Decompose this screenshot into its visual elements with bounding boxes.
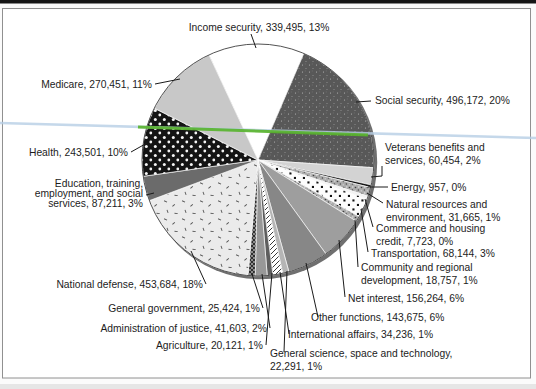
slice-label-social-security: Social security, 496,172, 20%: [375, 95, 510, 106]
scan-edge-top-bar: [0, 0, 536, 4]
slice-label-net-interest: Net interest, 156,264, 6%: [348, 293, 464, 304]
slice-label-other-functions: Other functions, 143,675, 6%: [311, 312, 444, 323]
scanned-pie-chart-figure: Income security, 339,495, 13%Social secu…: [0, 0, 536, 389]
slice-label-national-defense: National defense, 453,684, 18%: [56, 279, 203, 290]
slice-label-international-affairs: International affairs, 34,236, 1%: [288, 329, 433, 340]
pie-chart: Income security, 339,495, 13%Social secu…: [0, 0, 536, 389]
slice-label-income-security: Income security, 339,495, 13%: [189, 22, 330, 33]
slice-label-agriculture: Agriculture, 20,121, 1%: [156, 340, 263, 351]
slice-label-transportation: Transportation, 68,144, 3%: [371, 248, 495, 259]
slice-label-general-government: General government, 25,424, 1%: [108, 303, 260, 314]
scan-edge-bottom-strip: [0, 384, 536, 389]
slice-label-administration-of-justice: Administration of justice, 41,603, 2%: [100, 323, 267, 334]
slice-label-medicare: Medicare, 270,451, 11%: [41, 79, 152, 90]
slice-label-energy: Energy, 957, 0%: [391, 182, 466, 193]
slice-label-health: Health, 243,501, 10%: [29, 147, 128, 158]
